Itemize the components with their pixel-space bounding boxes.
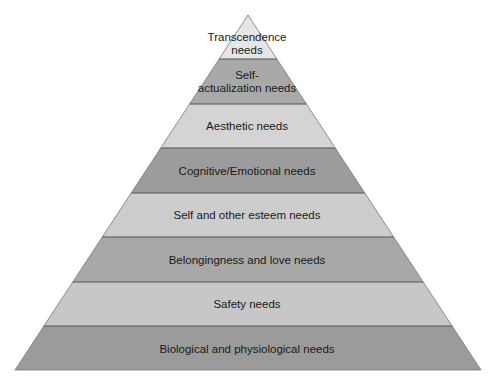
label-line: Belongingness and love needs [0, 254, 494, 267]
level-label-belongingness: Belongingness and love needs [0, 254, 494, 267]
level-label-aesthetic: Aesthetic needs [0, 120, 494, 133]
level-label-transcendence: Transcendence needs [0, 31, 494, 57]
level-label-safety: Safety needs [0, 298, 494, 311]
label-line: Biological and physiological needs [0, 343, 494, 356]
label-line: Transcendence [0, 31, 494, 44]
level-label-self-actualization: Self- actualization needs [0, 69, 494, 95]
label-line: Self- [0, 69, 494, 82]
needs-pyramid [0, 0, 494, 386]
level-label-biological: Biological and physiological needs [0, 343, 494, 356]
level-label-esteem: Self and other esteem needs [0, 209, 494, 222]
label-line: actualization needs [0, 82, 494, 95]
label-line: Cognitive/Emotional needs [0, 165, 494, 178]
label-line: Self and other esteem needs [0, 209, 494, 222]
label-line: Aesthetic needs [0, 120, 494, 133]
level-label-cognitive-emotional: Cognitive/Emotional needs [0, 165, 494, 178]
label-line: Safety needs [0, 298, 494, 311]
label-line: needs [0, 44, 494, 57]
